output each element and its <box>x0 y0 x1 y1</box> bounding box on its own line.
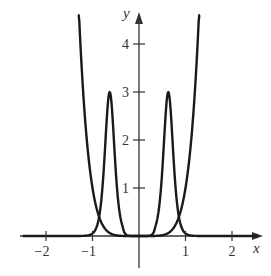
y-axis-arrow-icon <box>135 12 143 24</box>
y-tick-label: 4 <box>122 37 129 52</box>
chart: −2−1121234 y x <box>0 0 271 276</box>
y-tick-label: 1 <box>122 181 129 196</box>
y-axis-label: y <box>121 5 130 21</box>
x-tick-label: −1 <box>81 244 96 259</box>
curves <box>23 15 258 236</box>
y-tick-label: 2 <box>122 133 129 148</box>
twin-peak-curve <box>23 92 258 236</box>
y-tick-label: 3 <box>122 85 129 100</box>
x-tick-label: −2 <box>35 244 50 259</box>
x-tick-label: 1 <box>182 244 189 259</box>
x-axis-label: x <box>252 240 260 256</box>
x-tick-label: 2 <box>229 244 236 259</box>
ticks: −2−1121234 <box>35 37 236 259</box>
